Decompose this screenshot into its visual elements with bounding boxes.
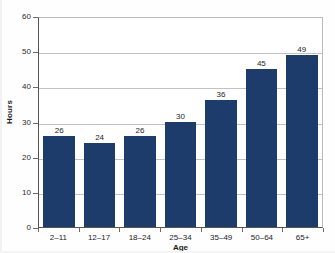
bar-slot: 26 (120, 18, 160, 227)
x-axis-tick-label: 25–34 (160, 233, 201, 243)
y-axis-tick-labels: 0102030405060 (0, 0, 36, 253)
x-axis-tick-mark (323, 228, 324, 232)
x-axis-tick-label: 12–17 (79, 233, 120, 243)
bar-series: 26242630364549 (39, 18, 322, 227)
y-axis-tick-label: 20 (1, 154, 31, 162)
x-axis-tick-label: 65+ (282, 233, 323, 243)
plot-area: 26242630364549 (38, 17, 323, 228)
bar[interactable] (43, 136, 75, 227)
bar[interactable] (205, 100, 237, 227)
bar-value-label: 26 (120, 126, 160, 135)
bar-value-label: 36 (201, 90, 241, 99)
bar[interactable] (286, 55, 318, 227)
y-axis-tick-label: 0 (1, 224, 31, 232)
x-axis-tick-label: 35–49 (201, 233, 242, 243)
bar-value-label: 45 (241, 59, 281, 68)
bar-value-label: 24 (79, 133, 119, 142)
y-axis-tick-label: 50 (1, 48, 31, 56)
x-axis-tick-label: 50–64 (242, 233, 283, 243)
chart-title-cropped (8, 0, 308, 7)
bar-chart: Hours 0102030405060 26242630364549 2–111… (0, 0, 335, 253)
bar-slot: 49 (282, 18, 322, 227)
y-axis-tick-label: 60 (1, 13, 31, 21)
x-axis-tick-mark (282, 228, 283, 232)
x-axis-tick-label: 18–24 (119, 233, 160, 243)
x-axis-tick-label: 2–11 (38, 233, 79, 243)
bar-slot: 26 (39, 18, 79, 227)
bar-value-label: 30 (160, 112, 200, 121)
bar[interactable] (246, 69, 278, 227)
x-axis-tick-mark (201, 228, 202, 232)
y-axis-tick-label: 10 (1, 189, 31, 197)
bar[interactable] (124, 136, 156, 227)
bar[interactable] (84, 143, 116, 227)
x-axis-tick-mark (242, 228, 243, 232)
scan-edge-left (0, 0, 2, 253)
y-axis-tick-label: 30 (1, 119, 31, 127)
bar-slot: 24 (79, 18, 119, 227)
bar-slot: 36 (201, 18, 241, 227)
y-axis-tick-label: 40 (1, 83, 31, 91)
bar-slot: 45 (241, 18, 281, 227)
bar[interactable] (165, 122, 197, 228)
x-axis-tick-mark (79, 228, 80, 232)
bar-slot: 30 (160, 18, 200, 227)
x-axis-tick-mark (160, 228, 161, 232)
x-axis-tick-mark (38, 228, 39, 232)
x-axis-tick-mark (119, 228, 120, 232)
bar-value-label: 26 (39, 126, 79, 135)
bar-value-label: 49 (282, 45, 322, 54)
